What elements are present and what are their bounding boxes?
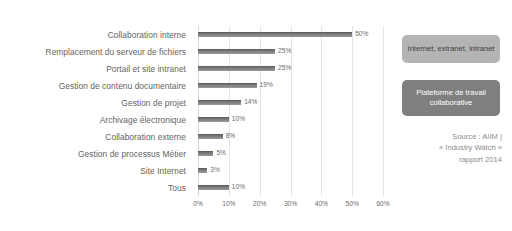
source-line-2: « Industry Watch » [398, 142, 502, 153]
source-line-1: Source : AIIM | [398, 131, 502, 142]
callout-plateforme-travail-collaborative: Plateforme de travail collaborative [402, 80, 500, 116]
side-annotations: Internet, extranet, intranet Plateforme … [392, 0, 512, 231]
bar-value-label: 19% [260, 82, 273, 89]
bar [198, 66, 275, 71]
gridline [383, 26, 384, 196]
bar [198, 100, 241, 105]
bar-value-label: 14% [244, 99, 257, 106]
category-label: Collaboration externe [0, 128, 192, 145]
axis-tick-label: 30% [284, 200, 297, 207]
bar-row: 10% [198, 111, 383, 128]
plot-area: 50%25%25%19%14%10%8%5%3%10% [198, 26, 383, 196]
bar [198, 134, 223, 139]
category-label: Gestion de projet [0, 94, 192, 111]
bar-row: 50% [198, 26, 383, 43]
bar-value-label: 10% [232, 184, 245, 191]
bar-value-label: 5% [216, 150, 226, 157]
category-label: Archivage électronique [0, 111, 192, 128]
bar-value-label: 50% [355, 31, 368, 38]
bar-row: 8% [198, 128, 383, 145]
source-line-3: rapport 2014 [398, 154, 502, 165]
bar-value-label: 25% [278, 48, 291, 55]
axis-tick-label: 60% [376, 200, 389, 207]
bar [198, 49, 275, 54]
category-label: Tous [0, 179, 192, 196]
category-label: Portail et site intranet [0, 60, 192, 77]
chart-figure: Collaboration interneRemplacement du ser… [0, 0, 512, 231]
axis-tick-label: 50% [346, 200, 359, 207]
category-axis-labels: Collaboration interneRemplacement du ser… [0, 26, 192, 196]
bar-row: 14% [198, 94, 383, 111]
axis-tick-label: 40% [315, 200, 328, 207]
bar [198, 117, 229, 122]
category-label: Remplacement du serveur de fichiers [0, 43, 192, 60]
bar-row: 10% [198, 179, 383, 196]
bar-series: 50%25%25%19%14%10%8%5%3%10% [198, 26, 383, 196]
category-label: Gestion de contenu documentaire [0, 77, 192, 94]
bar-row: 3% [198, 162, 383, 179]
bar-chart: Collaboration interneRemplacement du ser… [0, 0, 392, 231]
bar [198, 32, 352, 37]
callout-internet-extranet-intranet: Internet, extranet, intranet [402, 35, 500, 63]
bar [198, 151, 213, 156]
bar-row: 25% [198, 43, 383, 60]
axis-tick-label: 0% [193, 200, 203, 207]
value-axis: 0%10%20%30%40%50%60% [198, 198, 383, 216]
bar-row: 25% [198, 60, 383, 77]
bar [198, 168, 207, 173]
category-label: Collaboration interne [0, 26, 192, 43]
bar-row: 19% [198, 77, 383, 94]
bar-value-label: 8% [226, 133, 236, 140]
bar-value-label: 3% [210, 167, 220, 174]
category-label: Gestion de processus Métier [0, 145, 192, 162]
axis-tick-label: 10% [222, 200, 235, 207]
bar [198, 83, 257, 88]
category-label: Site Internet [0, 162, 192, 179]
bar-value-label: 25% [278, 65, 291, 72]
bar-row: 5% [198, 145, 383, 162]
axis-tick-label: 20% [253, 200, 266, 207]
source-note: Source : AIIM | « Industry Watch » rappo… [398, 131, 502, 165]
bar [198, 185, 229, 190]
bar-value-label: 10% [232, 116, 245, 123]
